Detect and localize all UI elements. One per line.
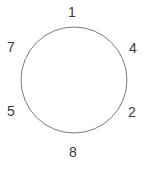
circle-shape — [21, 27, 127, 133]
node-label-lower-left: 5 — [7, 104, 15, 118]
node-label-top: 1 — [68, 5, 76, 19]
node-label-lower-right: 2 — [128, 105, 136, 119]
node-label-upper-left: 7 — [7, 40, 15, 54]
node-label-bottom: 8 — [69, 145, 77, 159]
circle-diagram: 1 4 2 8 5 7 — [0, 0, 147, 170]
node-label-upper-right: 4 — [129, 41, 137, 55]
